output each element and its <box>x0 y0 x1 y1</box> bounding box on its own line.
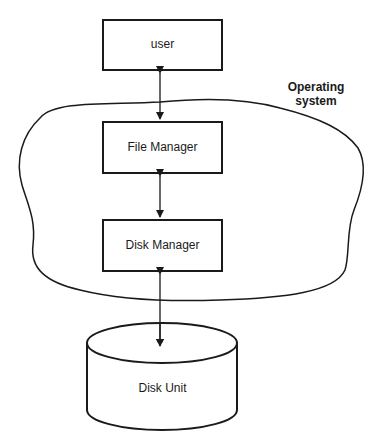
disk-unit-label: Disk Unit <box>103 381 222 395</box>
file-manager-label: File Manager <box>103 140 222 154</box>
diagram-canvas <box>0 0 382 447</box>
disk-manager-label: Disk Manager <box>103 238 222 252</box>
user-label: user <box>103 37 222 51</box>
operating-system-label-line2: system <box>285 94 347 108</box>
operating-system-label-line1: Operating <box>285 80 347 94</box>
disk-unit-cylinder <box>87 323 237 430</box>
operating-system-label: Operating system <box>285 80 347 108</box>
